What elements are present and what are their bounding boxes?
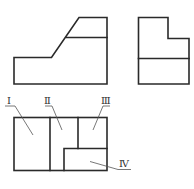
leader-I	[5, 106, 33, 135]
three-view-drawing: Ⅰ Ⅱ Ⅲ Ⅳ	[0, 0, 194, 189]
label-II: Ⅱ	[44, 95, 51, 106]
region-leaders	[5, 106, 131, 170]
front-view	[14, 18, 107, 85]
top-view-inner-region	[64, 149, 107, 171]
side-view-outline	[139, 18, 190, 85]
front-view-outline	[14, 18, 107, 85]
label-IV: Ⅳ	[119, 158, 130, 169]
side-view	[139, 18, 190, 85]
label-I: Ⅰ	[7, 95, 11, 106]
label-III: Ⅲ	[101, 95, 111, 106]
